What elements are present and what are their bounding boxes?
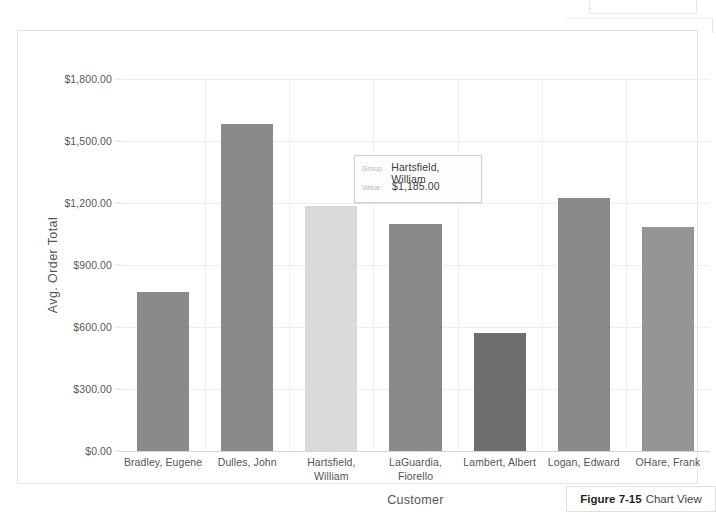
x-tick-label: Logan, Edward	[542, 455, 626, 469]
chart-figure-frame: Avg. Order Total $0.00$300.00$600.00$900…	[17, 30, 698, 484]
tooltip-value-value: $1,185.00	[392, 180, 440, 192]
y-tick-mark	[115, 79, 121, 80]
chart-plot-area: $0.00$300.00$600.00$900.00$1,200.00$1,50…	[121, 79, 710, 451]
x-tick-label: Hartsfield,William	[289, 455, 373, 483]
y-tick-mark	[115, 203, 121, 204]
x-tick-label: OHare, Frank	[626, 455, 710, 469]
x-tick-label-line: William	[289, 469, 373, 483]
y-tick-mark	[115, 327, 121, 328]
x-tick-label: LaGuardia,Fiorello	[373, 455, 457, 483]
x-gridline	[458, 79, 459, 451]
y-tick-label: $1,500.00	[64, 135, 112, 147]
x-gridline	[289, 79, 290, 451]
y-gridline	[121, 79, 710, 80]
y-tick-mark	[115, 265, 121, 266]
chart-bar[interactable]	[558, 198, 610, 451]
x-tick-label: Dulles, John	[205, 455, 289, 469]
chart-tooltip: Group Hartsfield, William Value $1,185.0…	[354, 155, 482, 203]
x-gridline	[626, 79, 627, 451]
x-tick-label-line: LaGuardia,	[373, 455, 457, 469]
x-gridline	[542, 79, 543, 451]
chart-bar[interactable]	[305, 206, 357, 451]
y-tick-label: $1,200.00	[64, 197, 112, 209]
y-tick-label: $0.00	[85, 445, 112, 457]
x-tick-label-line: OHare, Frank	[626, 455, 710, 469]
chart-bar[interactable]	[389, 224, 441, 451]
x-gridline	[373, 79, 374, 451]
x-tick-label-line: Bradley, Eugene	[121, 455, 205, 469]
y-tick-mark	[115, 389, 121, 390]
x-tick-label-line: Lambert, Albert	[458, 455, 542, 469]
y-tick-mark	[115, 141, 121, 142]
y-gridline	[121, 203, 710, 204]
figure-caption-text: Chart View	[646, 493, 702, 505]
x-tick-label: Lambert, Albert	[458, 455, 542, 469]
y-tick-label: $1,800.00	[64, 73, 112, 85]
chart-bar[interactable]	[642, 227, 694, 451]
chart-bar[interactable]	[221, 124, 273, 451]
x-tick-label-line: Dulles, John	[205, 455, 289, 469]
y-gridline	[121, 141, 710, 142]
tooltip-value-label: Value	[362, 184, 392, 191]
y-tick-mark	[115, 451, 121, 452]
chart-bar[interactable]	[137, 292, 189, 451]
y-tick-label: $300.00	[73, 383, 112, 395]
tooltip-group-label: Group	[362, 165, 391, 172]
x-tick-label-line: Fiorello	[373, 469, 457, 483]
y-tick-label: $900.00	[73, 259, 112, 271]
figure-caption: Figure 7-15 Chart View	[566, 486, 716, 512]
tooltip-group-row: Group Hartsfield, William	[362, 161, 475, 180]
chart-bar[interactable]	[474, 333, 526, 451]
page-scan-stub-top	[589, 0, 697, 14]
x-tick-label-line: Hartsfield,	[289, 455, 373, 469]
figure-caption-number: Figure 7-15	[580, 493, 641, 505]
x-tick-label-line: Logan, Edward	[542, 455, 626, 469]
y-tick-label: $600.00	[73, 321, 112, 333]
x-gridline	[205, 79, 206, 451]
y-gridline	[121, 451, 710, 452]
y-axis-title: Avg. Order Total	[46, 79, 62, 451]
x-tick-label: Bradley, Eugene	[121, 455, 205, 469]
